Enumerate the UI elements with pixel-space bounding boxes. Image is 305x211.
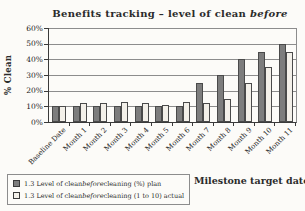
bar-actual-baseline-date: [59, 106, 66, 122]
y-axis-tick: [44, 28, 48, 29]
y-axis-label-20: 20%: [13, 86, 43, 95]
open-square-icon: [13, 192, 20, 199]
x-axis-tick: [130, 123, 131, 126]
legend-plan-prefix: 1.3 Level of clean: [24, 180, 82, 188]
chart-title: Benefits tracking – level of clean befor…: [40, 8, 300, 19]
y-axis-label-10: 10%: [13, 102, 43, 111]
y-axis-tick: [44, 106, 48, 107]
filled-square-icon: [13, 180, 20, 187]
bar-plan-month-5: [155, 106, 162, 122]
legend-item-plan: 1.3 Level of clean before cleaning (%) p…: [13, 179, 161, 188]
bar-actual-month-5: [162, 105, 169, 122]
bar-actual-month-3: [121, 102, 128, 122]
x-axis-tick: [192, 123, 193, 126]
legend-actual-suffix: cleaning (1 to 10) actual: [104, 192, 185, 200]
y-axis-tick: [44, 91, 48, 92]
bar-actual-month-10: [265, 67, 272, 122]
bar-plan-month-9: [238, 59, 245, 122]
x-axis-tick: [110, 123, 111, 126]
bar-plan-baseline-date: [52, 106, 59, 122]
legend-plan-suffix: cleaning (%) plan: [104, 180, 162, 188]
bar-actual-month-2: [100, 103, 107, 122]
plot-area: [48, 28, 297, 123]
legend-item-actual: 1.3 Level of clean before cleaning (1 to…: [13, 191, 184, 200]
x-axis-tick: [254, 123, 255, 126]
x-axis-tick: [89, 123, 90, 126]
y-axis-label-40: 40%: [13, 55, 43, 64]
bar-plan-month-2: [93, 106, 100, 122]
y-axis-label-60: 60%: [13, 24, 43, 33]
y-axis-label-0: 0%: [13, 118, 43, 127]
y-axis-label-30: 30%: [13, 71, 43, 80]
chart-title-italic-text: before: [250, 8, 288, 19]
bar-plan-month-10: [258, 52, 265, 123]
benefits-tracking-chart: Benefits tracking – level of clean befor…: [0, 0, 305, 211]
y-axis-tick: [44, 44, 48, 45]
bar-actual-month-9: [245, 83, 252, 122]
bar-actual-month-7: [203, 103, 210, 122]
bar-plan-month-11: [279, 44, 286, 122]
y-axis-tick: [44, 122, 48, 123]
bar-plan-month-6: [176, 106, 183, 122]
x-axis-tick: [295, 123, 296, 126]
bar-plan-month-8: [217, 75, 224, 122]
bar-actual-month-11: [286, 52, 293, 123]
x-axis-tick: [69, 123, 70, 126]
gridline-50: [49, 44, 296, 45]
y-axis-tick: [44, 75, 48, 76]
bar-actual-month-4: [142, 103, 149, 122]
x-axis-tick: [172, 123, 173, 126]
bar-plan-month-1: [73, 106, 80, 122]
legend-actual-italic: before: [82, 192, 103, 200]
chart-title-text: Benefits tracking – level of clean: [52, 8, 250, 19]
legend-actual-prefix: 1.3 Level of clean: [24, 192, 82, 200]
y-axis-label-50: 50%: [13, 39, 43, 48]
gridline-60: [49, 28, 296, 29]
x-axis-tick: [151, 123, 152, 126]
x-axis-tick: [213, 123, 214, 126]
bar-plan-month-3: [114, 106, 121, 122]
bar-plan-month-4: [135, 106, 142, 122]
x-axis-tick: [233, 123, 234, 126]
bar-actual-month-8: [224, 99, 231, 123]
bar-actual-month-6: [183, 102, 190, 122]
y-axis-tick: [44, 59, 48, 60]
bar-actual-month-1: [80, 103, 87, 122]
x-axis-tick: [274, 123, 275, 126]
bar-plan-month-7: [196, 83, 203, 122]
